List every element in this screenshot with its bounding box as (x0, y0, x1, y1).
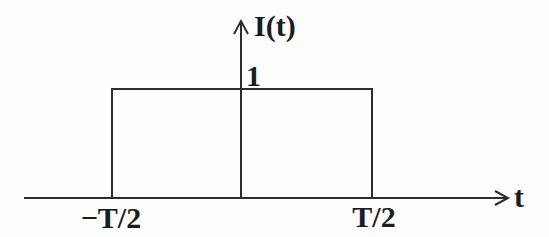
right-tick-label: T/2 (352, 200, 395, 233)
rectangular-pulse-figure: I(t) 1 −T/2 T/2 t (0, 0, 549, 237)
left-tick-label: −T/2 (81, 201, 141, 234)
x-axis-label: t (514, 180, 524, 213)
pulse-plot-canvas: I(t) 1 −T/2 T/2 t (0, 0, 549, 237)
y-axis-label: I(t) (254, 9, 296, 43)
amplitude-label: 1 (246, 59, 261, 92)
